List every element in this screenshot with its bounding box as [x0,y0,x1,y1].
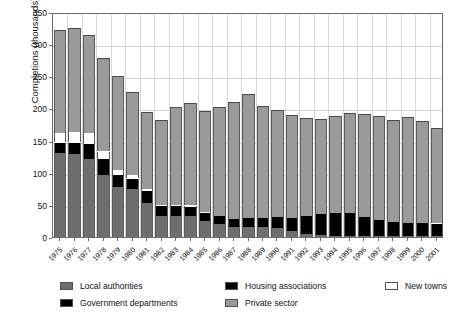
bar-segment-private-sector [300,118,312,216]
bar-segment-housing-associations [68,143,80,155]
bar-segment-private-sector [257,106,269,219]
bar-1997[interactable] [373,12,385,237]
bar-1984[interactable] [184,12,196,237]
x-axis-tick-mark [276,238,277,241]
bar-segment-local-authorities [329,236,341,237]
bar-series-layer [53,14,442,237]
bar-1981[interactable] [141,12,153,237]
bar-segment-local-authorities [300,234,312,237]
bar-segment-private-sector [199,111,211,212]
bar-segment-local-authorities [155,216,167,237]
legend-swatch-icon [385,282,398,290]
legend-label: Private sector [245,298,298,308]
bar-segment-housing-associations [358,217,370,236]
x-axis-tick-mark [59,238,60,241]
bar-1976[interactable] [68,12,80,237]
bar-segment-private-sector [97,58,109,152]
bar-segment-local-authorities [431,236,443,237]
legend-item-housing-associations[interactable]: Housing associations [225,281,326,291]
bar-1992[interactable] [300,12,312,237]
x-axis-tick-mark [146,238,147,241]
bar-segment-housing-associations [83,144,95,158]
legend-item-new-towns[interactable]: New towns [385,281,447,291]
bar-1983[interactable] [170,12,182,237]
bar-1993[interactable] [315,12,327,237]
bar-2000[interactable] [416,12,428,237]
bar-1977[interactable] [83,12,95,237]
bar-segment-private-sector [373,116,385,220]
bar-segment-new-towns [68,132,80,142]
bar-segment-private-sector [387,120,399,222]
bar-segment-housing-associations [155,206,167,216]
x-axis-tick-mark [363,238,364,241]
legend-label: Local authorities [80,281,143,291]
legend-item-government-departments[interactable]: Government departments [60,298,177,308]
bar-1990[interactable] [271,12,283,237]
bar-1978[interactable] [97,12,109,237]
x-axis-tick-mark [219,238,220,241]
bar-segment-housing-associations [431,224,443,237]
bar-segment-private-sector [170,107,182,205]
bar-1996[interactable] [358,12,370,237]
bar-1979[interactable] [112,12,124,237]
bar-1975[interactable] [54,12,66,237]
bar-segment-housing-associations [184,206,196,216]
bar-segment-private-sector [271,110,283,217]
bar-segment-housing-associations [286,218,298,231]
bar-1986[interactable] [213,12,225,237]
legend-swatch-icon [225,282,238,290]
y-axis-tick-label: 300 [7,41,47,49]
bar-segment-local-authorities [112,187,124,237]
legend-item-local-authorities[interactable]: Local authorities [60,281,143,291]
bar-segment-new-towns [155,205,167,206]
bar-1999[interactable] [402,12,414,237]
bar-segment-private-sector [315,119,327,214]
x-axis-tick-mark [88,238,89,241]
legend-item-private-sector[interactable]: Private sector [225,298,298,308]
bar-1989[interactable] [257,12,269,237]
bar-segment-housing-associations [402,223,414,237]
bar-segment-local-authorities [68,154,80,237]
bar-segment-private-sector [344,113,356,213]
bar-segment-local-authorities [315,235,327,237]
bar-segment-housing-associations [228,219,240,227]
bar-1985[interactable] [199,12,211,237]
legend-label: New towns [405,281,447,291]
bar-segment-housing-associations [112,175,124,187]
bar-1991[interactable] [286,12,298,237]
bar-1987[interactable] [228,12,240,237]
bar-segment-housing-associations [300,216,312,234]
legend-swatch-icon [60,299,73,307]
x-axis-tick-mark [436,238,437,241]
x-axis-tick-mark [161,238,162,241]
x-axis-tick-mark [392,238,393,241]
bar-segment-private-sector [402,117,414,223]
bar-1980[interactable] [126,12,138,237]
bar-segment-local-authorities [83,159,95,237]
bar-segment-private-sector [329,116,341,212]
bar-segment-local-authorities [97,175,109,237]
y-axis-tick-label: 50 [7,202,47,210]
bar-segment-local-authorities [199,221,211,237]
bar-2001[interactable] [431,12,443,237]
bar-segment-housing-associations [97,159,109,174]
legend-label: Housing associations [245,281,326,291]
bar-1988[interactable] [242,12,254,237]
bar-segment-local-authorities [228,227,240,237]
bar-segment-housing-associations [329,213,341,236]
x-axis-tick-mark [349,238,350,241]
bar-segment-private-sector [54,30,66,133]
bar-segment-local-authorities [184,216,196,237]
x-axis-tick-mark [103,238,104,241]
bar-segment-private-sector [213,107,225,216]
bar-segment-local-authorities [257,227,269,237]
bar-segment-new-towns [54,133,66,143]
legend-label: Government departments [80,298,177,308]
bar-segment-housing-associations [315,214,327,235]
bar-1998[interactable] [387,12,399,237]
bar-segment-new-towns [184,206,196,207]
x-axis-tick-mark [204,238,205,241]
bar-1995[interactable] [344,12,356,237]
bar-1982[interactable] [155,12,167,237]
bar-1994[interactable] [329,12,341,237]
